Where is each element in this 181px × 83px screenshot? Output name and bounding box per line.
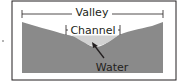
water-label: Water [96,61,129,74]
bullet-dot [2,40,4,42]
channel-label: Channel [70,24,115,37]
valley-channel-diagram: Valley Channel Water [0,0,181,83]
valley-label: Valley [76,6,109,19]
